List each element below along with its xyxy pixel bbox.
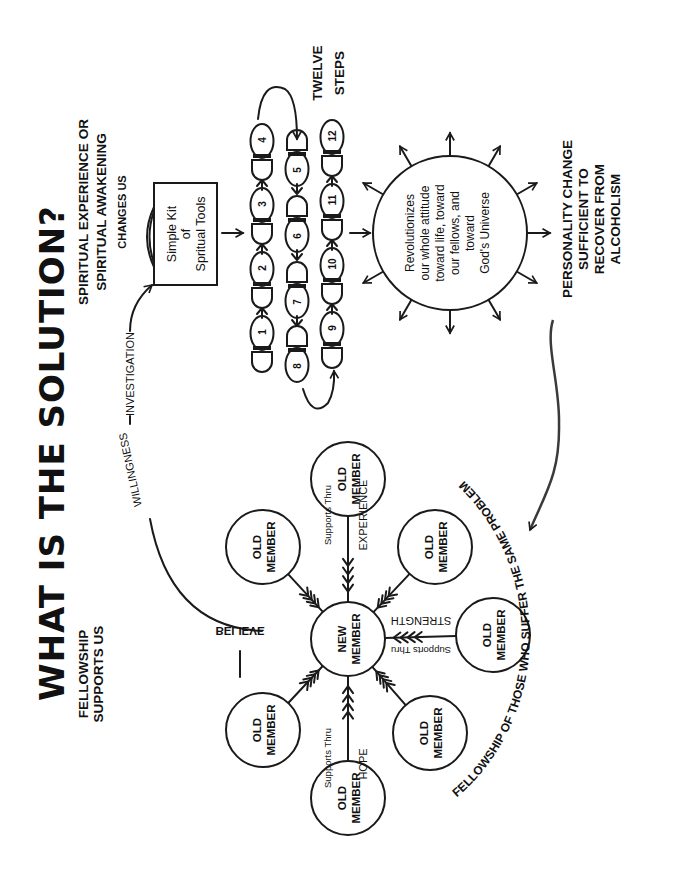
diagram-page: WHAT IS THE SOLUTION? FELLOWSHIP SUPPORT… <box>0 0 676 879</box>
radial-arrow-icon <box>400 300 412 320</box>
heel-shape <box>322 284 342 304</box>
path-to-kit: BELIEVE WILLINGNESS INVESTIGATION <box>116 285 265 677</box>
heel-shape <box>322 348 342 368</box>
footprint-step-11: 11 <box>321 176 344 240</box>
old-member-label-line-1: OLD <box>423 535 435 559</box>
personality-change-heading: PERSONALITY CHANGE SUFFICIENT TO RECOVER… <box>560 140 623 298</box>
footprint-step-10: 10 <box>321 240 344 304</box>
revolution-circle: Revolutionizes our whole attitude toward… <box>363 133 550 333</box>
heel-shape <box>287 262 307 282</box>
heel-shape <box>252 224 272 244</box>
footprint-step-3: 3 <box>251 180 274 244</box>
new-member: NEWMEMBER <box>311 602 385 676</box>
old-member-label-line-1: OLD <box>336 786 348 810</box>
step-number: 10 <box>327 258 338 270</box>
footprint-step-6: 6 <box>286 196 309 260</box>
fellowship-heading: FELLOWSHIP SUPPORTS US <box>76 626 106 723</box>
old-member-label-line-1: OLD <box>481 623 493 647</box>
step-number: 4 <box>257 137 268 143</box>
experience-supports-label: Supports Thru <box>322 485 333 545</box>
old-member-label-line-1: OLD <box>336 467 348 491</box>
heel-shape <box>322 156 342 176</box>
revolution-text-line-1: Revolutionizes <box>403 194 417 272</box>
footprint-step-12: 12 <box>321 120 344 176</box>
kit-label-line-1: Simple Kit <box>165 205 179 262</box>
investigation-to-kit-arrow <box>130 285 152 331</box>
new-member-label-line-2: MEMBER <box>350 613 362 665</box>
step-number: 9 <box>327 325 338 331</box>
footprint-step-8: 8 <box>286 326 309 382</box>
revolution-text-line-3: toward life, toward <box>433 184 447 281</box>
twelve-steps-line-1: TWELVE <box>310 45 325 100</box>
hope-label: HOPE <box>357 748 369 779</box>
spiritual-heading-line-3: CHANGES US <box>116 175 128 248</box>
radial-arrow-icon <box>517 272 537 284</box>
fellowship-heading-line-1: FELLOWSHIP <box>76 630 91 719</box>
personality-line-4: ALCOHOLISM <box>608 174 623 265</box>
member-circle <box>226 510 300 584</box>
step-number: 11 <box>327 194 338 205</box>
personality-line-2: SUFFICIENT TO <box>576 168 591 270</box>
willingness-label: WILLINGNESS <box>116 432 143 508</box>
strength-supports-label: Supports Thru <box>391 645 451 656</box>
step-number: 6 <box>292 233 303 239</box>
personality-line-3: RECOVER FROM <box>592 164 607 274</box>
kit-label-line-3: Spritual Tools <box>194 197 208 272</box>
old-member-label-line-1: OLD <box>251 535 263 559</box>
strength-label: STRENGTH <box>391 615 452 627</box>
heel-shape <box>322 220 342 240</box>
old-member-label-line-2: MEMBER <box>432 707 444 759</box>
heel-shape <box>252 160 272 180</box>
spiritual-heading: SPIRITUAL EXPERIENCE OR SPIRITUAL AWAKEN… <box>76 119 128 305</box>
spiritual-heading-line-1: SPIRITUAL EXPERIENCE OR <box>76 119 91 305</box>
experience-label: EXPERIENCE <box>357 480 369 551</box>
step-number: 7 <box>292 299 303 305</box>
heel-shape <box>287 196 307 216</box>
radial-arrow-icon <box>363 272 383 284</box>
member-circle <box>226 693 300 767</box>
old-member-label-line-2: MEMBER <box>437 521 449 573</box>
footprint-step-1: 1 <box>251 308 274 372</box>
investigation-label: INVESTIGATION <box>124 332 136 416</box>
personality-to-fellowship-arrow <box>530 320 559 530</box>
hope-supports-label: Supports Thru <box>322 728 333 788</box>
old-member-lower-left: OLDMEMBER <box>226 693 300 767</box>
radial-arrow-icon <box>489 300 501 320</box>
old-member-label-line-2: MEMBER <box>495 609 507 661</box>
step-number: 5 <box>292 167 303 173</box>
spiritual-heading-line-2: SPIRITUAL AWAKENING <box>94 133 109 291</box>
old-member-label-line-1: OLD <box>418 721 430 745</box>
step-number: 1 <box>257 329 268 335</box>
member-circle <box>398 510 472 584</box>
new-member-label-line-1: NEW <box>336 625 348 652</box>
step-number: 8 <box>292 363 303 369</box>
radial-arrow-icon <box>489 146 501 166</box>
old-member-lower-right: OLDMEMBER <box>393 696 467 770</box>
old-member-label-line-1: OLD <box>251 718 263 742</box>
heel-shape <box>287 326 307 346</box>
old-member-upper-right: OLDMEMBER <box>398 510 472 584</box>
member-circle <box>393 696 467 770</box>
old-member-label-line-2: MEMBER <box>265 521 277 573</box>
footprint-step-4: 4 <box>251 124 274 180</box>
footprint-step-7: 7 <box>286 262 309 326</box>
step-number: 2 <box>257 265 268 271</box>
page-title: WHAT IS THE SOLUTION? <box>32 205 72 701</box>
spiritual-tools-kit: Simple Kit of Spritual Tools <box>147 183 217 285</box>
footprint-step-2: 2 <box>251 244 274 308</box>
member-circle <box>311 602 385 676</box>
revolution-text-line-4: our fellows, and <box>448 191 462 275</box>
step-8-to-9-turn-arrow <box>303 371 334 409</box>
radial-arrow-icon <box>517 183 537 195</box>
twelve-steps-line-2: STEPS <box>332 51 347 95</box>
personality-line-1: PERSONALITY CHANGE <box>560 140 575 298</box>
twelve-steps-footprints: 123456789101112 <box>251 120 344 382</box>
heel-shape <box>252 288 272 308</box>
radial-arrow-icon <box>363 183 383 195</box>
radial-arrow-icon <box>400 146 412 166</box>
step-number: 3 <box>257 201 268 207</box>
revolution-text-line-5: toward <box>463 215 477 251</box>
old-member-upper-left: OLDMEMBER <box>226 510 300 584</box>
footprint-step-9: 9 <box>321 304 344 368</box>
twelve-steps-heading: TWELVE STEPS <box>310 45 347 100</box>
